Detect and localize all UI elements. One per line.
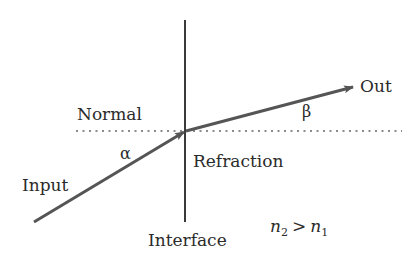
n1-symbol: n bbox=[310, 216, 321, 236]
interface-label: Interface bbox=[148, 232, 227, 249]
input-label: Input bbox=[22, 177, 68, 194]
n2-subscript: 2 bbox=[281, 226, 288, 239]
n1-subscript: 1 bbox=[321, 226, 328, 239]
refractive-index-relation: n2>n1 bbox=[270, 218, 328, 238]
n2-symbol: n bbox=[270, 216, 281, 236]
output-ray-arrow bbox=[186, 87, 353, 131]
greater-than-operator: > bbox=[288, 216, 310, 236]
refraction-label: Refraction bbox=[193, 153, 283, 170]
normal-label: Normal bbox=[77, 106, 142, 123]
alpha-angle-label: α bbox=[120, 146, 131, 162]
refraction-diagram bbox=[0, 0, 419, 262]
beta-angle-label: β bbox=[302, 104, 311, 120]
out-label: Out bbox=[360, 78, 392, 95]
